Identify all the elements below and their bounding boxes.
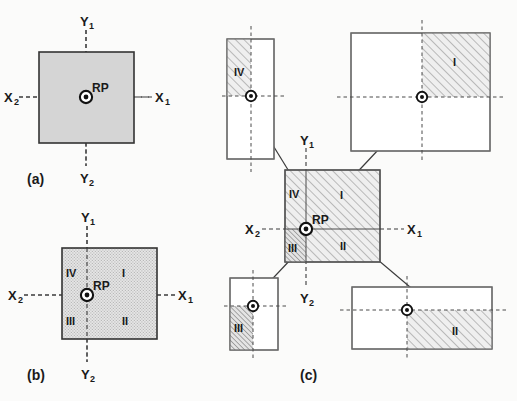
panel-a-rp-label: RP bbox=[92, 81, 109, 95]
panel-c-quadrant-I: I bbox=[340, 189, 343, 201]
panel-b-y1-subscript: 1 bbox=[90, 217, 95, 227]
satellite-IV-label: IV bbox=[234, 66, 245, 78]
satellite-III-label: III bbox=[234, 322, 243, 334]
panel-b-x2-label: X bbox=[8, 288, 17, 303]
panel-b-caption: (b) bbox=[27, 367, 45, 383]
panel-c-y2-label: Y bbox=[300, 291, 309, 306]
panel-c-y1-label: Y bbox=[300, 133, 309, 148]
satellite-IV-rp-marker bbox=[246, 91, 256, 101]
figure-canvas: RP X 1 X 2 Y 1 Y 2 (a) I II III IV RP X … bbox=[0, 0, 517, 401]
panel-b-x1-subscript: 1 bbox=[188, 295, 193, 305]
panel-b-quadrant-II: II bbox=[122, 315, 128, 327]
panel-c-quadrant-II: II bbox=[340, 240, 346, 252]
satellite-III-rp-marker bbox=[248, 301, 258, 311]
panel-b-x1-label: X bbox=[178, 288, 187, 303]
panel-c-x1-subscript: 1 bbox=[417, 229, 422, 239]
panel-a-caption: (a) bbox=[27, 171, 44, 187]
panel-a-x1-label: X bbox=[155, 90, 164, 105]
panel-b-y1-label: Y bbox=[81, 210, 90, 225]
panel-c-x2-subscript: 2 bbox=[255, 229, 260, 239]
satellite-panel-I: I bbox=[337, 20, 505, 163]
panel-c-x2-label: X bbox=[245, 222, 254, 237]
panel-a-x2-subscript: 2 bbox=[14, 97, 19, 107]
panel-a-y1-subscript: 1 bbox=[89, 21, 94, 31]
panel-c-quadrant-III: III bbox=[288, 242, 297, 254]
panel-b-rp-label: RP bbox=[93, 279, 110, 293]
satellite-panel-II: II bbox=[340, 276, 506, 360]
panel-a-y2-label: Y bbox=[80, 171, 89, 186]
satellite-II-rp-marker bbox=[402, 305, 412, 315]
satellite-II-hatched-quadrant bbox=[407, 310, 492, 349]
satellite-II-label: II bbox=[452, 325, 458, 337]
panel-a-y2-subscript: 2 bbox=[89, 178, 94, 188]
panel-c-caption: (c) bbox=[300, 367, 317, 383]
satellite-I-rp-marker bbox=[417, 92, 427, 102]
panel-c-y1-subscript: 1 bbox=[309, 140, 314, 150]
panel-b-quadrant-IV: IV bbox=[66, 267, 77, 279]
panel-c-rp-label: RP bbox=[312, 213, 329, 227]
diagram-svg: RP X 1 X 2 Y 1 Y 2 (a) I II III IV RP X … bbox=[0, 0, 517, 401]
panel-c-quadrant-IV: IV bbox=[289, 188, 300, 200]
panel-c-rp-marker bbox=[300, 223, 312, 235]
panel-b-quadrant-III: III bbox=[66, 315, 75, 327]
panel-c-x1-label: X bbox=[407, 222, 416, 237]
panel-b-x2-subscript: 2 bbox=[18, 295, 23, 305]
satellite-I-label: I bbox=[453, 56, 456, 68]
panel-b-rp-marker bbox=[81, 289, 93, 301]
panel-b-quadrant-I: I bbox=[122, 267, 125, 279]
panel-a-x2-label: X bbox=[4, 90, 13, 105]
panel-b-y2-subscript: 2 bbox=[90, 374, 95, 384]
panel-c-y2-subscript: 2 bbox=[309, 298, 314, 308]
panel-b-y2-label: Y bbox=[81, 367, 90, 382]
satellite-panel-III: III bbox=[224, 270, 288, 360]
panel-a-x1-subscript: 1 bbox=[165, 97, 170, 107]
panel-a-rp-marker bbox=[80, 91, 92, 103]
panel-a-y1-label: Y bbox=[80, 14, 89, 29]
panel-b-square bbox=[62, 248, 157, 339]
